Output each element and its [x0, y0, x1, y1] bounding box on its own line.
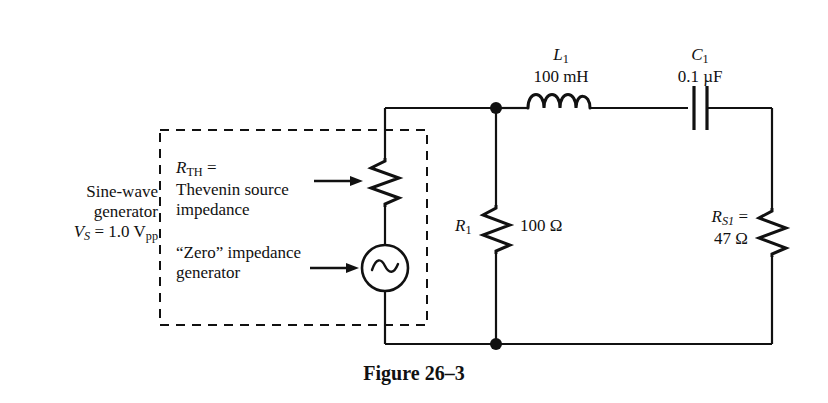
inductor-designator: L1	[506, 45, 616, 67]
circuit-figure: Sine-wave generator VS = 1.0 Vpp RTH = T…	[0, 0, 828, 403]
arrow-right-icon-zero-impedance	[310, 263, 359, 273]
arrow-right-icon-thevenin	[314, 176, 363, 186]
capacitor-designator-subscript: 1	[703, 52, 709, 66]
capacitor-icon	[694, 86, 707, 130]
generator-description-line2: generator	[0, 202, 158, 222]
generator-description-line1: Sine-wave	[0, 182, 158, 202]
capacitor-value: 0.1 µF	[645, 67, 755, 87]
ac-source-icon	[362, 245, 408, 291]
thevenin-callout-line3: impedance	[176, 200, 289, 220]
generator-source-voltage: VS = 1.0 Vpp	[0, 222, 158, 244]
zero-impedance-callout: “Zero” impedance generator	[176, 243, 301, 283]
inductor-label: L1 100 mH	[506, 45, 616, 87]
resistor-r1-value: 100 Ω	[520, 216, 562, 236]
zero-impedance-callout-line1: “Zero” impedance	[176, 243, 301, 263]
thevenin-callout-line2: Thevenin source	[176, 180, 289, 200]
zero-impedance-callout-line2: generator	[176, 263, 301, 283]
resistor-rs1-designator-suffix: =	[734, 207, 748, 226]
resistor-r1-designator-subscript: 1	[465, 223, 471, 237]
capacitor-designator: C1	[645, 45, 755, 67]
generator-description: Sine-wave generator VS = 1.0 Vpp	[0, 182, 158, 244]
inductor-value: 100 mH	[506, 67, 616, 87]
resistor-rs1-label: RS1 = 47 Ω	[662, 207, 748, 249]
junction-dot-bottom	[490, 338, 502, 350]
capacitor-designator-letter: C	[691, 45, 702, 64]
rth-symbol-subscript: TH	[186, 165, 202, 179]
rth-symbol-suffix: =	[203, 158, 217, 177]
capacitor-label: C1 0.1 µF	[645, 45, 755, 87]
resistor-r1-designator-letter: R	[455, 216, 465, 235]
inductor-icon	[528, 95, 590, 109]
voltage-value-subscript: pp	[146, 230, 158, 244]
resistor-rs1-value: 47 Ω	[662, 229, 748, 249]
thevenin-callout: RTH = Thevenin source impedance	[176, 158, 289, 220]
figure-caption: Figure 26–3	[0, 362, 828, 386]
thevenin-callout-line1: RTH =	[176, 158, 289, 180]
resistor-rth-icon	[371, 158, 399, 207]
resistor-rs1-icon	[759, 208, 786, 257]
voltage-value: = 1.0 V	[90, 222, 146, 241]
resistor-r1-designator: R1	[455, 216, 472, 238]
rth-symbol: R	[176, 158, 186, 177]
resistor-rs1-designator: RS1 =	[662, 207, 748, 229]
voltage-symbol: V	[74, 222, 84, 241]
resistor-r1-icon	[483, 205, 510, 254]
resistor-rs1-designator-letter: R	[712, 207, 722, 226]
inductor-designator-subscript: 1	[563, 52, 569, 66]
inductor-designator-letter: L	[553, 45, 562, 64]
resistor-rs1-designator-subscript: S1	[722, 214, 734, 228]
